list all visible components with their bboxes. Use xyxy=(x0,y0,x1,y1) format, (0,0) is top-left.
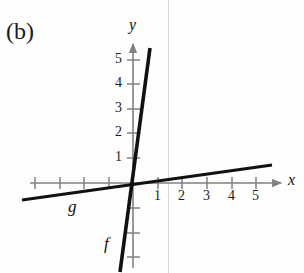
x-tick-label-4: 4 xyxy=(228,188,235,204)
coordinate-plot xyxy=(0,0,304,273)
curve-label-f: f xyxy=(104,234,109,254)
x-tick-label-2: 2 xyxy=(178,188,185,204)
y-axis-label: y xyxy=(129,16,136,34)
y-tick-label-2: 2 xyxy=(108,124,122,140)
x-tick-label-1: 1 xyxy=(154,188,161,204)
x-tick-label-5: 5 xyxy=(252,188,259,204)
curve-f xyxy=(120,48,150,272)
y-tick-label-3: 3 xyxy=(108,100,122,116)
y-tick-label-5: 5 xyxy=(108,51,122,67)
curve-label-g: g xyxy=(68,197,77,217)
y-tick-label-4: 4 xyxy=(108,75,122,91)
x-axis-label: x xyxy=(288,171,295,189)
y-tick-label-1: 1 xyxy=(108,149,122,165)
figure-panel-b: (b) xyxy=(0,0,304,273)
x-tick-label-3: 3 xyxy=(203,188,210,204)
